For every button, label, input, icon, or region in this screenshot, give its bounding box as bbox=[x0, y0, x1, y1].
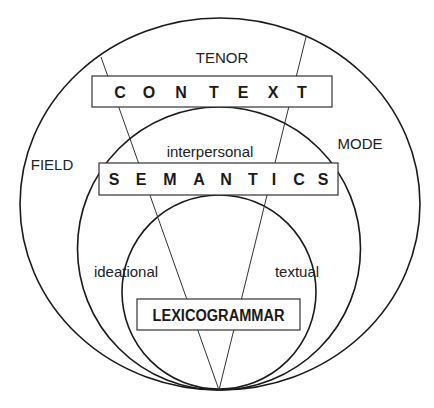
semantics-letter: S bbox=[318, 171, 329, 188]
context-letter: O bbox=[143, 84, 155, 101]
semantics-letter: N bbox=[220, 171, 232, 188]
context-letter: C bbox=[114, 84, 126, 101]
context-letter: T bbox=[209, 84, 219, 101]
semantics-letter: T bbox=[248, 171, 258, 188]
semantics-letter: C bbox=[293, 171, 305, 188]
semantics-box: S E M A N T I C S bbox=[99, 163, 338, 195]
field-label: FIELD bbox=[31, 156, 74, 173]
mode-label: MODE bbox=[338, 135, 383, 152]
lexicogrammar-box: LEXICOGRAMMAR bbox=[137, 299, 300, 330]
semantics-letter: E bbox=[136, 171, 147, 188]
context-letter: X bbox=[268, 84, 279, 101]
lexicogrammar-circle bbox=[122, 195, 316, 389]
tenor-label: TENOR bbox=[196, 49, 249, 66]
semantics-letter: M bbox=[163, 171, 176, 188]
context-letter: T bbox=[297, 84, 307, 101]
context-circle bbox=[20, 18, 420, 390]
semantics-letter: S bbox=[109, 171, 120, 188]
stratification-diagram: C O N T E X T S E M A N T I C S LEXICOGR… bbox=[0, 0, 434, 408]
context-letter: N bbox=[175, 84, 187, 101]
lexicogrammar-label: LEXICOGRAMMAR bbox=[153, 307, 285, 324]
textual-label: textual bbox=[275, 263, 319, 280]
semantics-letter: I bbox=[272, 171, 276, 188]
context-letter: E bbox=[238, 84, 249, 101]
semantics-letter: A bbox=[193, 171, 205, 188]
interpersonal-label: interpersonal bbox=[167, 143, 254, 160]
context-box: C O N T E X T bbox=[92, 76, 332, 107]
ideational-label: ideational bbox=[94, 263, 158, 280]
